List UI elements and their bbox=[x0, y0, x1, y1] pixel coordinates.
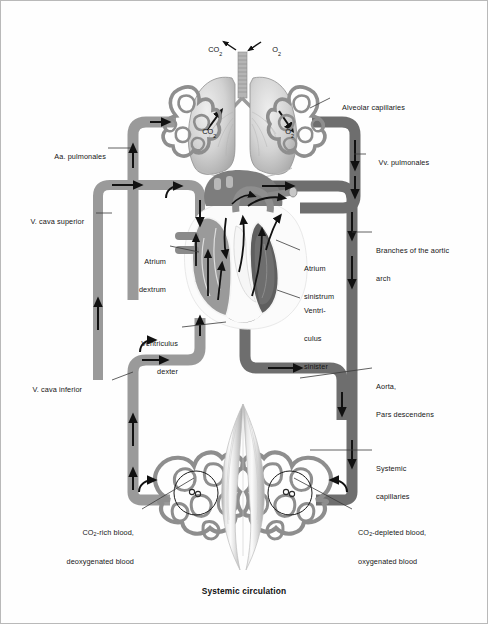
diagram-caption: Systemic circulation bbox=[0, 586, 488, 596]
label-ventriculus-sinister-line3: sinister bbox=[304, 362, 376, 371]
label-atrium-dextrum-line1: Atrium bbox=[94, 257, 166, 266]
label-co2-rich-blood: CO2-rich blood, deoxygenated blood bbox=[8, 509, 134, 585]
label-atrium-sinistrum-line1: Atrium bbox=[304, 264, 378, 273]
label-co2-depleted-blood: CO2-depleted blood, oxygenated blood bbox=[358, 509, 486, 585]
label-ventriculus-sinister-line2: culus bbox=[304, 334, 376, 343]
label-vv-pulmonales: Vv. pulmonales bbox=[370, 149, 482, 177]
label-systemic-cap-line1: Systemic bbox=[376, 464, 476, 473]
label-branches-aortic-arch: Branches of the aortic arch bbox=[376, 227, 484, 302]
label-co2-depleted-line1: CO2-depleted blood, bbox=[358, 528, 486, 538]
label-atrium-dextrum-line2: dextrum bbox=[94, 285, 166, 294]
label-ventriculus-sinister: Ventri- culus sinister bbox=[304, 287, 376, 390]
co2-out-label: CO2 bbox=[200, 36, 222, 64]
label-v-cava-inferior: V. cava inferior bbox=[24, 376, 116, 404]
gas-exchange-arrows bbox=[224, 42, 261, 50]
label-co2-rich-line1: CO2-rich blood, bbox=[8, 528, 134, 538]
label-systemic-cap-line2: capillaries bbox=[376, 492, 476, 501]
o2-in-label: O2 bbox=[264, 36, 281, 64]
diagram-canvas: CO2 O2 CO2 O2 Aa. pulmonales V. cava sup… bbox=[0, 0, 488, 624]
label-alveolar-capillaries: Alveolar capillaries bbox=[334, 94, 474, 122]
label-co2-rich-line2: deoxygenated blood bbox=[8, 557, 134, 566]
label-v-cava-superior: V. cava superior bbox=[22, 208, 116, 236]
label-co2-depleted-line2: oxygenated blood bbox=[358, 557, 486, 566]
label-aorta-pars-descendens: Aorta, Pars descendens bbox=[376, 363, 484, 438]
label-aorta-line1: Aorta, bbox=[376, 382, 484, 391]
label-branches-line2: arch bbox=[376, 274, 484, 283]
label-aorta-line2: Pars descendens bbox=[376, 410, 484, 419]
label-aa-pulmonales: Aa. pulmonales bbox=[10, 143, 106, 171]
co2-lung-left-label: CO2 bbox=[194, 118, 216, 146]
label-atrium-dextrum: Atrium dextrum bbox=[94, 238, 166, 313]
muscle-body bbox=[222, 404, 265, 570]
label-branches-line1: Branches of the aortic bbox=[376, 246, 484, 255]
label-ventriculus-dexter-line1: Ventriculus bbox=[96, 339, 178, 348]
label-ventriculus-sinister-line1: Ventri- bbox=[304, 306, 376, 315]
o2-lung-right-label: O2 bbox=[277, 118, 294, 146]
